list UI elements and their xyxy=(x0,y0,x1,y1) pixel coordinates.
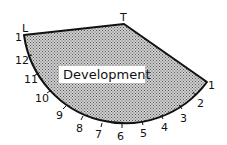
development-diagram: Development T L 1 1 2 3 4 5 6 7 8 9 10 1… xyxy=(0,0,227,145)
division-5: 5 xyxy=(140,127,147,140)
division-7: 7 xyxy=(95,128,102,141)
start-number: 1 xyxy=(15,31,22,44)
division-8: 8 xyxy=(76,122,83,135)
division-6: 6 xyxy=(117,130,124,143)
apex-label-t: T xyxy=(119,11,127,24)
division-11: 11 xyxy=(24,73,38,86)
division-2: 2 xyxy=(197,97,204,110)
division-10: 10 xyxy=(35,92,49,105)
end-number: 1 xyxy=(208,79,215,92)
division-12: 12 xyxy=(15,54,29,67)
division-4: 4 xyxy=(161,121,168,134)
development-label: Development xyxy=(63,67,151,82)
start-label-l: L xyxy=(22,22,29,35)
division-3: 3 xyxy=(180,112,187,125)
division-9: 9 xyxy=(56,109,63,122)
